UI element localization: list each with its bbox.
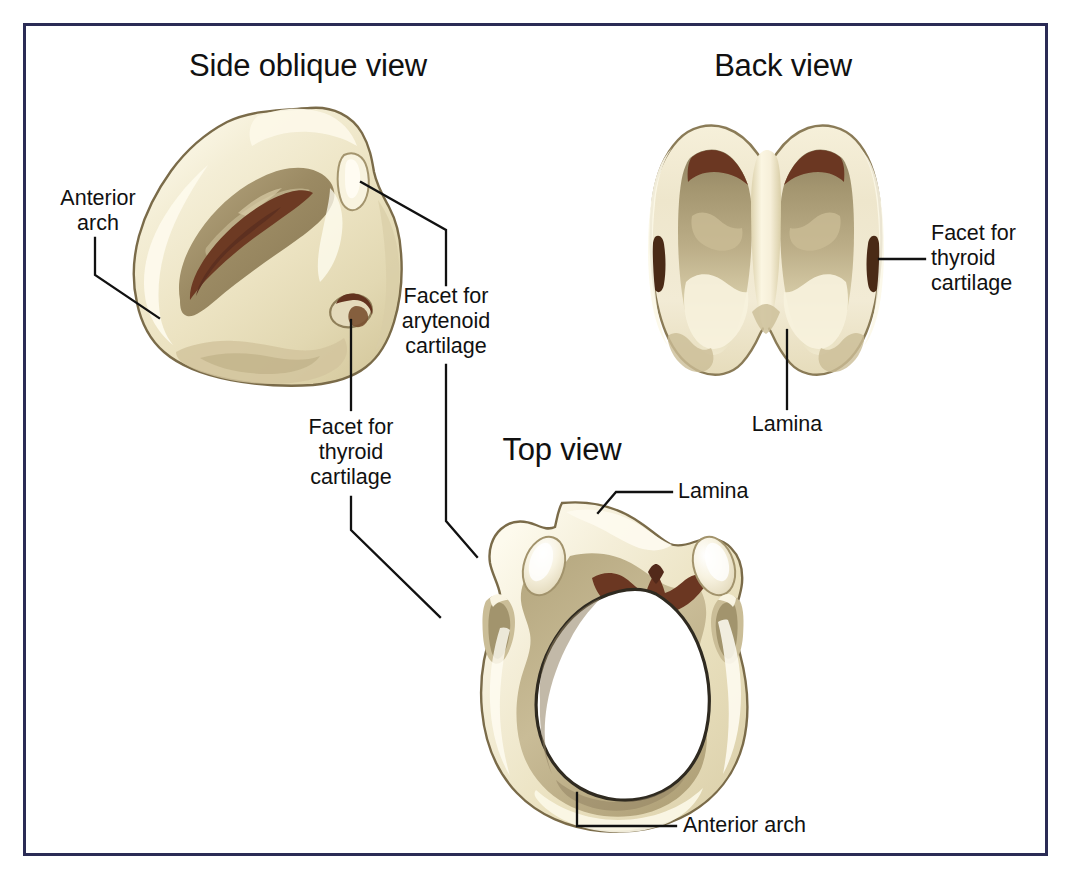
panel-title-side-oblique: Side oblique view [148,48,468,84]
label-anterior-arch-left: Anterior arch [24,186,172,236]
label-lamina-back: Lamina [737,412,837,437]
label-facet-thyroid-right: Facet for thyroid cartilage [931,221,1061,296]
back-view-illustration [648,125,884,374]
side-oblique-illustration [134,108,402,386]
label-lamina-top: Lamina [678,479,788,504]
panel-title-top: Top view [472,432,652,468]
anatomy-figure: Side oblique view Back view Top view Ant… [0,0,1068,882]
label-facet-arytenoid: Facet for arytenoid cartilage [366,284,526,359]
label-anterior-arch-bottom: Anterior arch [683,813,883,838]
label-facet-thyroid-left: Facet for thyroid cartilage [271,415,431,490]
top-view-illustration [481,502,747,832]
panel-title-back: Back view [653,48,913,84]
leader-facet-thyroid-left-lower [351,497,440,617]
